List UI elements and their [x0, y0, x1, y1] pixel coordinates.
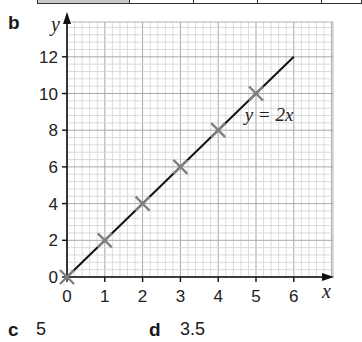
- y-tick-label: 2: [49, 231, 58, 250]
- x-tick-label: 2: [138, 287, 147, 306]
- y-axis-label: y: [49, 13, 60, 36]
- x-tick-label: 5: [251, 287, 260, 306]
- y-axis-arrow-icon: [63, 12, 71, 24]
- part-c-answer: 5: [36, 319, 46, 340]
- x-tick-label: 1: [100, 287, 109, 306]
- y-tick-label: 4: [49, 195, 58, 214]
- x-tick-label: 3: [176, 287, 185, 306]
- y-tick-label: 10: [39, 85, 58, 104]
- y-tick-label: 8: [49, 121, 58, 140]
- part-c-label: c: [8, 319, 19, 341]
- equation-label: y = 2x: [243, 104, 294, 125]
- part-d-label: d: [149, 319, 161, 341]
- x-tick-label: 0: [62, 287, 71, 306]
- part-d-answer: 3.5: [180, 319, 205, 340]
- y-tick-label: 12: [39, 48, 58, 67]
- x-axis-label: x: [321, 280, 331, 302]
- y-tick-label: 0: [49, 268, 58, 287]
- x-tick-label: 6: [289, 287, 298, 306]
- x-tick-label: 4: [213, 287, 222, 306]
- y-tick-label: 6: [49, 158, 58, 177]
